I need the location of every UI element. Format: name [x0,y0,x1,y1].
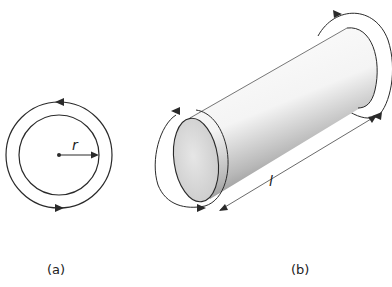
radius-label: r [72,137,78,153]
caption-a: (a) [47,262,65,277]
length-arrow-start-icon [219,204,228,211]
radius-arrowhead-icon [91,152,99,159]
panel-b [155,10,392,212]
bottom-arrow-icon [55,204,64,212]
front-bottom-arrow-icon [197,204,206,212]
diagram-canvas [0,0,392,287]
caption-b: (b) [291,262,309,277]
top-arrow-icon [55,98,64,106]
front-top-arrow-icon [171,107,180,115]
length-arrow-end-icon [368,115,377,123]
length-label: l [269,173,273,189]
panel-a [6,98,112,212]
